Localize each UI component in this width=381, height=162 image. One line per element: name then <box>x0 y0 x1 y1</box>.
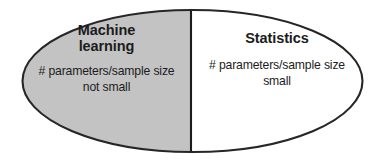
diagram-canvas: Machine learning # parameters/sample siz… <box>0 0 381 162</box>
venn-ellipse-graphic <box>0 0 381 162</box>
